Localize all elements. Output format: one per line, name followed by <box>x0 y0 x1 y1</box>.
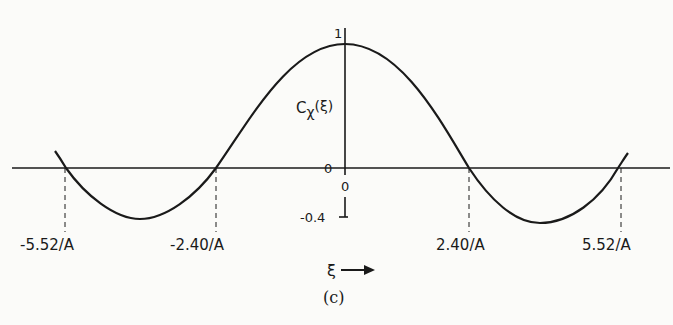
figure-caption: (c) <box>323 288 344 307</box>
x-tick-pos240: 2.40/A <box>436 236 485 254</box>
x-tick-pos552: 5.52/A <box>582 236 631 254</box>
x-tick-neg240: -2.40/A <box>170 236 225 254</box>
y-axis-label: Cχ(ξ) <box>296 98 333 120</box>
correlation-figure: 1 0 0 -0.4 -5.52/A -2.40/A 2.40/A 5.52/A… <box>0 0 673 325</box>
x-tick-neg552: -5.52/A <box>20 236 75 254</box>
y-tick-min: -0.4 <box>300 210 325 225</box>
y-axis-label-sub: χ <box>306 104 314 120</box>
x-axis-label: ξ <box>327 261 336 280</box>
y-axis-label-arg: (ξ) <box>315 98 334 114</box>
x-tick-zero: 0 <box>341 179 349 194</box>
arrow-right-icon <box>364 265 375 275</box>
y-tick-zero: 0 <box>324 161 332 176</box>
correlation-curve <box>55 44 628 223</box>
y-axis-label-main: C <box>296 99 306 117</box>
y-tick-one: 1 <box>334 26 342 41</box>
